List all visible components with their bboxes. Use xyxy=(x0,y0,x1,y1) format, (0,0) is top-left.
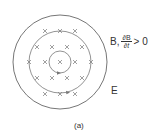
fraction-numerator: ∂B xyxy=(121,34,131,42)
label-b: B, xyxy=(110,36,119,47)
partial-derivative-fraction: ∂B ∂t xyxy=(121,34,131,49)
fraction-denominator: ∂t xyxy=(124,42,129,49)
label-e-field: E xyxy=(111,85,118,96)
inner-arrow-icon xyxy=(57,71,61,74)
figure-caption: (a) xyxy=(74,121,84,130)
magnetic-field-into-page-crosses xyxy=(27,29,93,96)
label-b-field: B, ∂B ∂t > 0 xyxy=(110,34,148,49)
inequality: > 0 xyxy=(134,36,148,47)
magnetic-field-diagram xyxy=(0,0,161,136)
